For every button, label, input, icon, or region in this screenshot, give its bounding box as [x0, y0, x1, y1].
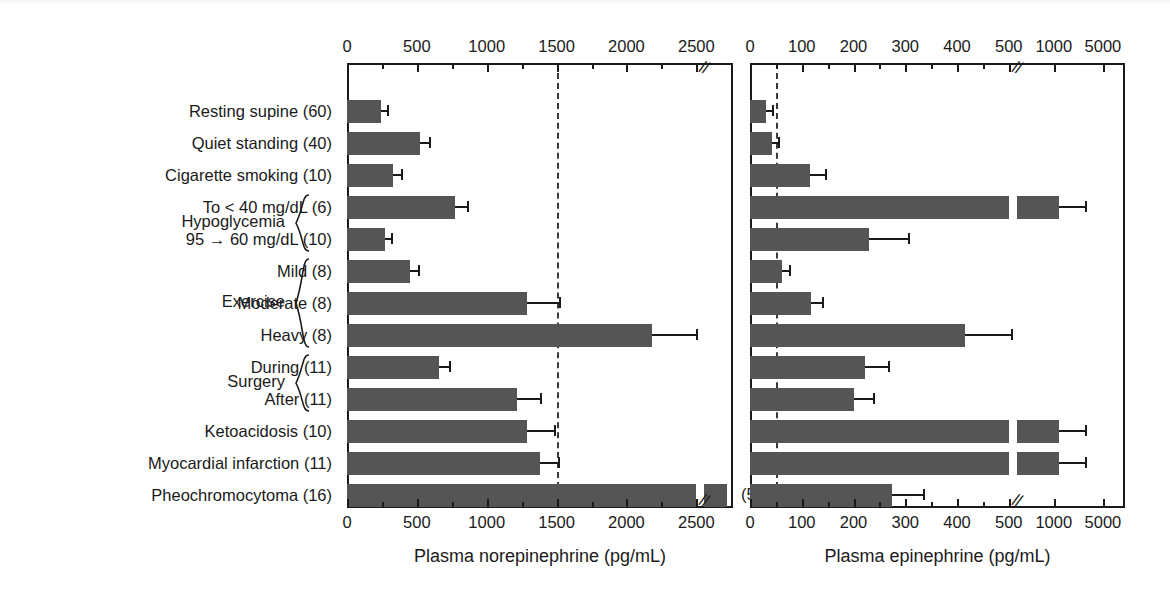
bar	[750, 356, 865, 379]
error-bar	[517, 398, 539, 400]
axis-tick-bottom	[802, 499, 804, 508]
bar-overflow-segment	[1017, 196, 1059, 219]
error-bar-cap	[391, 233, 393, 244]
axis-tick-label: 2000	[591, 37, 661, 56]
group-brace-label: Exercise	[0, 292, 285, 311]
axis-minor-tick	[828, 63, 830, 69]
bar	[347, 452, 540, 475]
group-brace-icon	[293, 194, 311, 252]
error-bar	[965, 334, 1012, 336]
axis-tick-bottom	[905, 499, 907, 508]
bar	[750, 484, 892, 507]
error-bar-cap	[554, 425, 556, 436]
axis-tick-label: 1000	[452, 513, 522, 532]
row-label: Mild (8)	[0, 255, 340, 287]
error-bar	[527, 430, 554, 432]
error-bar	[811, 302, 822, 304]
bar	[750, 100, 766, 123]
axis-tick-top	[417, 63, 419, 72]
error-bar-cap	[418, 265, 420, 276]
error-bar	[439, 366, 449, 368]
error-bar	[854, 398, 874, 400]
group-brace-icon	[293, 354, 311, 412]
axis-tick-top	[802, 63, 804, 72]
axis-tick-bottom	[1054, 499, 1056, 508]
axis-minor-tick	[661, 502, 663, 508]
error-bar-cap	[401, 169, 403, 180]
x-axis-title: Plasma epinephrine (pg/mL)	[720, 546, 1155, 567]
axis-tick-label: 0	[312, 513, 382, 532]
axis-tick-bottom	[957, 499, 959, 508]
error-bar-cap	[789, 265, 791, 276]
panel-norepinephrine: (5310)05001000150020002500//050010001500…	[347, 63, 733, 508]
axis-tick-top	[854, 63, 856, 72]
axis-minor-tick	[592, 63, 594, 69]
bar	[347, 164, 393, 187]
axis-tick-label: 1500	[522, 513, 592, 532]
axis-tick-top	[557, 63, 559, 72]
error-bar	[420, 142, 430, 144]
bar	[347, 420, 527, 443]
error-bar-cap	[778, 137, 780, 148]
axis-tick-bottom	[487, 499, 489, 508]
error-bar	[393, 174, 401, 176]
bar	[750, 228, 869, 251]
axis-tick-bottom	[626, 499, 628, 508]
error-bar	[892, 494, 923, 496]
error-bar-cap	[1085, 425, 1087, 436]
bar-overflow-segment	[1017, 452, 1059, 475]
bar	[347, 228, 385, 251]
axis-tick-label: 0	[312, 37, 382, 56]
error-bar	[652, 334, 697, 336]
error-bar	[540, 462, 558, 464]
bar	[347, 100, 381, 123]
error-bar-cap	[467, 201, 469, 212]
error-bar-cap	[449, 361, 451, 372]
bar	[750, 292, 811, 315]
bar	[347, 292, 527, 315]
scan-edge-artifact	[0, 0, 1170, 5]
row-label: Quiet standing (40)	[0, 127, 340, 159]
axis-minor-tick	[452, 63, 454, 69]
axis-minor-tick	[983, 63, 985, 69]
axis-tick-label: 5000	[1068, 37, 1138, 56]
error-bar	[1059, 206, 1085, 208]
axis-tick-label: 500	[382, 37, 452, 56]
row-label: Ketoacidosis (10)	[0, 415, 340, 447]
x-axis-title: Plasma norepinephrine (pg/mL)	[317, 546, 763, 567]
error-bar-cap	[822, 297, 824, 308]
group-brace-icon	[293, 258, 311, 348]
group-brace-label: Surgery	[0, 372, 285, 391]
axis-tick-bottom	[750, 499, 752, 508]
bar	[347, 196, 455, 219]
panel-epinephrine: 010020030040050010005000//01002003004005…	[750, 63, 1125, 508]
error-bar-cap	[772, 105, 774, 116]
error-bar-cap	[387, 105, 389, 116]
error-bar	[869, 238, 908, 240]
axis-minor-tick	[661, 63, 663, 69]
axis-tick-top	[347, 63, 349, 72]
bar	[347, 132, 420, 155]
axis-tick-top	[1054, 63, 1056, 72]
bar	[750, 132, 772, 155]
row-label: Resting supine (60)	[0, 95, 340, 127]
bar	[750, 164, 810, 187]
error-bar-cap	[923, 489, 925, 500]
bar	[347, 388, 517, 411]
bar	[750, 324, 965, 347]
error-bar	[810, 174, 826, 176]
axis-minor-tick	[983, 502, 985, 508]
row-label: Cigarette smoking (10)	[0, 159, 340, 191]
bar	[347, 324, 652, 347]
error-bar	[1059, 430, 1085, 432]
error-bar-cap	[825, 169, 827, 180]
error-bar	[410, 270, 418, 272]
bar-overflow-segment	[1017, 420, 1059, 443]
axis-tick-top	[905, 63, 907, 72]
error-bar-cap	[429, 137, 431, 148]
axis-minor-tick	[776, 63, 778, 69]
error-bar-cap	[696, 329, 698, 340]
row-label: Pheochromocytoma (16)	[0, 479, 340, 511]
axis-minor-tick	[931, 63, 933, 69]
axis-tick-label: 1500	[522, 37, 592, 56]
